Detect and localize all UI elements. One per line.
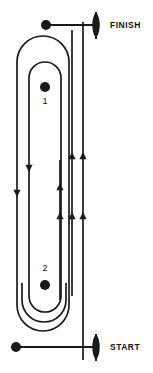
zone-2-label: 2: [42, 263, 47, 273]
arrow-down-middle: [25, 165, 32, 172]
finish-reference-dot: [41, 20, 51, 30]
flag-icon: [92, 12, 100, 39]
diagram-canvas: FINISH START 1 2: [0, 0, 153, 373]
zone-1-marker-dot: [40, 82, 50, 92]
arrow-up-center-upper: [56, 183, 63, 190]
track-diagram-svg: FINISH START 1 2: [0, 0, 153, 373]
arrow-up-center-lower: [56, 212, 63, 219]
arrow-up-right-outer-lower: [79, 212, 86, 219]
zone-1-label: 1: [42, 96, 47, 106]
zone-2-marker-dot: [40, 280, 50, 290]
flag-icon: [92, 334, 100, 361]
start-label: START: [110, 342, 141, 352]
arrow-up-right-outer-upper: [79, 152, 86, 159]
start-reference-dot: [11, 342, 21, 352]
finish-label: FINISH: [110, 20, 141, 30]
arrow-down-outer: [13, 190, 20, 197]
